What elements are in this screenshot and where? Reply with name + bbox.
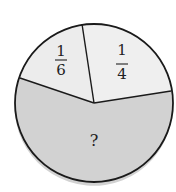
label-one-sixth: 1 6 [55, 42, 67, 79]
label-one-sixth-denominator: 6 [56, 61, 66, 79]
label-one-sixth-numerator: 1 [56, 42, 66, 60]
label-unknown: ? [90, 131, 99, 150]
label-one-quarter-numerator: 1 [117, 41, 127, 59]
label-one-quarter-denominator: 4 [117, 65, 127, 83]
pie-chart: 1 6 1 4 ? [0, 0, 176, 192]
slice-one-quarter [82, 23, 171, 103]
